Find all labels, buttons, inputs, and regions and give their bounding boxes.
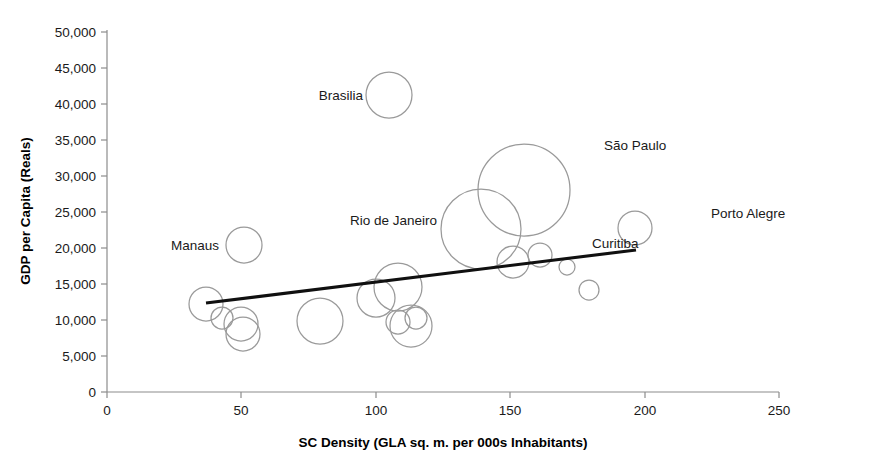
bubble-chart: 0 5,000 10,000 15,000 20,000 25,000 30,0… [0,0,887,465]
y-axis-title: GDP per Capita (Reals) [18,137,33,285]
y-tick-label-45000: 45,000 [55,61,96,76]
label-porto-alegre: Porto Alegre [711,206,785,221]
y-tick-label-30000: 30,000 [55,169,96,184]
label-brasilia: Brasilia [319,88,364,103]
y-tick-label-25000: 25,000 [55,205,96,220]
y-tick-label-15000: 15,000 [55,277,96,292]
y-axis-ticks [101,32,107,392]
label-curitiba: Curitiba [592,236,639,251]
y-tick-label-50000: 50,000 [55,25,96,40]
y-tick-label-20000: 20,000 [55,241,96,256]
y-tick-label-5000: 5,000 [62,349,96,364]
x-tick-label-0: 0 [103,403,111,418]
x-tick-label-250: 250 [768,403,791,418]
y-tick-label-35000: 35,000 [55,133,96,148]
label-manaus: Manaus [171,238,219,253]
y-tick-label-0: 0 [88,385,96,400]
chart-page: 0 5,000 10,000 15,000 20,000 25,000 30,0… [0,0,887,465]
plot-area-background [107,30,779,392]
label-rio-de-janeiro: Rio de Janeiro [350,213,437,228]
x-axis-title: SC Density (GLA sq. m. per 000s Inhabita… [298,435,587,450]
x-axis-ticks [107,392,779,398]
y-tick-label-40000: 40,000 [55,97,96,112]
y-tick-label-10000: 10,000 [55,313,96,328]
label-sao-paulo: São Paulo [604,138,666,153]
x-tick-label-100: 100 [365,403,388,418]
x-tick-label-150: 150 [499,403,522,418]
x-tick-label-50: 50 [233,403,248,418]
x-tick-label-200: 200 [634,403,657,418]
